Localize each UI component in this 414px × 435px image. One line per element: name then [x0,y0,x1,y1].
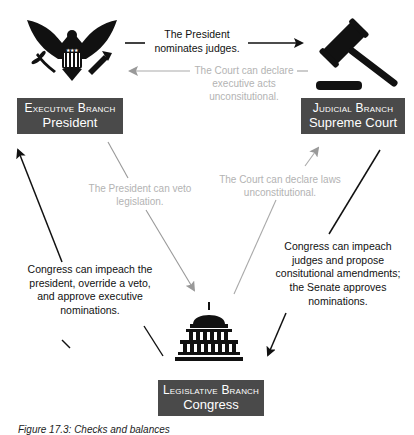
judicial-branch-title: Judicial Branch [301,102,405,116]
executive-branch-name: President [17,116,123,131]
text-line: consitutional amendments; [268,267,408,281]
text-line: unconsitutional. [190,90,298,103]
text-line: president, override a veto, [20,277,160,291]
text-line: Congress can impeach the [20,263,160,277]
executive-branch-title: Executive Branch [17,102,123,116]
text-line: judges and propose [268,254,408,268]
eagle-seal-icon: ★★★ [22,15,122,85]
text-line: the Senate approves [268,281,408,295]
text-line: The Court can declare [190,64,298,77]
svg-text:★★★: ★★★ [66,47,79,53]
text-line: nominations. [20,304,160,318]
text-line: nominations. [268,295,408,309]
court-exec-acts-text: The Court can declare executive acts unc… [190,64,298,103]
legislative-branch-label: Legislative Branch Congress [158,380,264,416]
president-veto-text: The President can veto legislation. [80,182,200,208]
court-laws-text: The Court can declare laws unconstitutio… [215,173,345,199]
congress-judges-text: Congress can impeach judges and propose … [268,240,408,308]
president-nominates-text: The President nominates judges. [146,28,248,55]
text-line: The Court can declare laws [215,173,345,186]
gavel-icon [312,15,402,90]
text-line: legislation. [80,195,200,208]
figure-caption: Figure 17.3: Checks and balances [18,424,170,435]
text-line: nominates judges. [146,42,248,56]
capitol-icon [172,302,246,362]
legislative-branch-title: Legislative Branch [158,384,264,398]
legislative-branch-name: Congress [158,398,264,413]
text-line: executive acts [190,77,298,90]
text-line: Congress can impeach [268,240,408,254]
arrow-congress-to-president [18,150,62,262]
text-line: unconstitutional. [215,186,345,199]
judicial-branch-label: Judicial Branch Supreme Court [301,98,405,134]
congress-president-text: Congress can impeach the president, over… [20,263,160,318]
text-line: and approve executive [20,290,160,304]
text-line: The President [146,28,248,42]
executive-branch-label: Executive Branch President [17,98,123,134]
judicial-branch-name: Supreme Court [301,116,405,131]
text-line: The President can veto [80,182,200,195]
arrow-president-to-congress [108,142,128,178]
